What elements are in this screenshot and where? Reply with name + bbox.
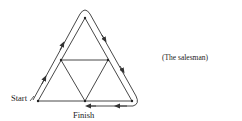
start-label: Start	[11, 94, 27, 103]
vertex-dots	[37, 17, 133, 102]
finish-label: Finish	[73, 111, 94, 120]
caption: (The salesman)	[162, 54, 208, 62]
triangle-grid	[38, 18, 132, 101]
salesman-path	[33, 10, 137, 106]
